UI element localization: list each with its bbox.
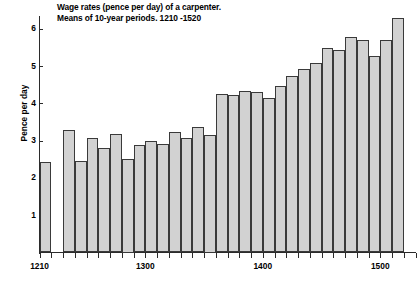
bar (228, 95, 240, 252)
bar (75, 161, 87, 252)
bar (98, 148, 110, 252)
bar (145, 141, 157, 252)
bar (239, 91, 251, 252)
bar (275, 86, 287, 253)
bar (63, 130, 75, 252)
bar (192, 127, 204, 252)
bar (110, 134, 122, 253)
bar (204, 135, 216, 253)
bar (380, 40, 392, 253)
bar (40, 162, 52, 252)
bar (169, 132, 181, 253)
bar (369, 56, 381, 253)
bar (263, 98, 275, 253)
bar (251, 92, 263, 253)
bar (87, 138, 99, 252)
bar-series (0, 0, 420, 286)
bar (298, 69, 310, 253)
bar (310, 63, 322, 252)
bar (181, 138, 193, 252)
chart-figure: Wage rates (pence per day) of a carpente… (0, 0, 420, 286)
bar (122, 159, 134, 252)
bar (345, 37, 357, 253)
bar (392, 18, 404, 253)
bar (286, 76, 298, 252)
bar (333, 50, 345, 253)
bar (357, 40, 369, 253)
bar (322, 48, 334, 252)
bar (157, 144, 169, 253)
bar (134, 145, 146, 252)
bar (216, 94, 228, 253)
